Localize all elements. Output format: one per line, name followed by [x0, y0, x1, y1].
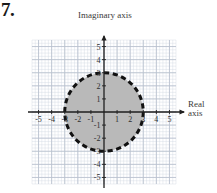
imaginary-axis-label: Imaginary axis: [78, 11, 132, 20]
problem-number: 7.: [1, 0, 14, 19]
y-tick-label: -1: [94, 121, 101, 130]
x-tick-label: -2: [74, 115, 81, 124]
y-tick-label: 3: [97, 69, 101, 78]
x-tick-label: 1: [115, 115, 119, 124]
x-tick-label: -5: [35, 115, 42, 124]
x-tick-label: 3: [141, 115, 145, 124]
y-tick-label: 5: [97, 43, 101, 52]
x-tick-label: 2: [128, 115, 132, 124]
real-axis-label: Real axis: [188, 100, 217, 119]
y-tick-label: -2: [94, 134, 101, 143]
y-tick-label: -5: [94, 173, 101, 182]
x-tick-label: -3: [61, 115, 68, 124]
x-tick-label: 5: [167, 115, 171, 124]
complex-plane-plot: -5-4-3-2-11234554321-1-2-3-4-5: [32, 40, 176, 184]
y-tick-label: -4: [94, 160, 101, 169]
y-tick-label: 4: [97, 56, 101, 65]
y-tick-label: 1: [97, 95, 101, 104]
figure-root: 7. Imaginary axis Real axis -5-4-3-2-112…: [0, 0, 217, 193]
y-tick-label: 2: [97, 82, 101, 91]
real-axis-label-line2: axis: [188, 108, 203, 118]
y-tick-label: -3: [94, 147, 101, 156]
x-tick-label: 4: [154, 115, 158, 124]
plot-canvas: -5-4-3-2-11234554321-1-2-3-4-5: [32, 40, 176, 184]
x-tick-label: -4: [48, 115, 55, 124]
